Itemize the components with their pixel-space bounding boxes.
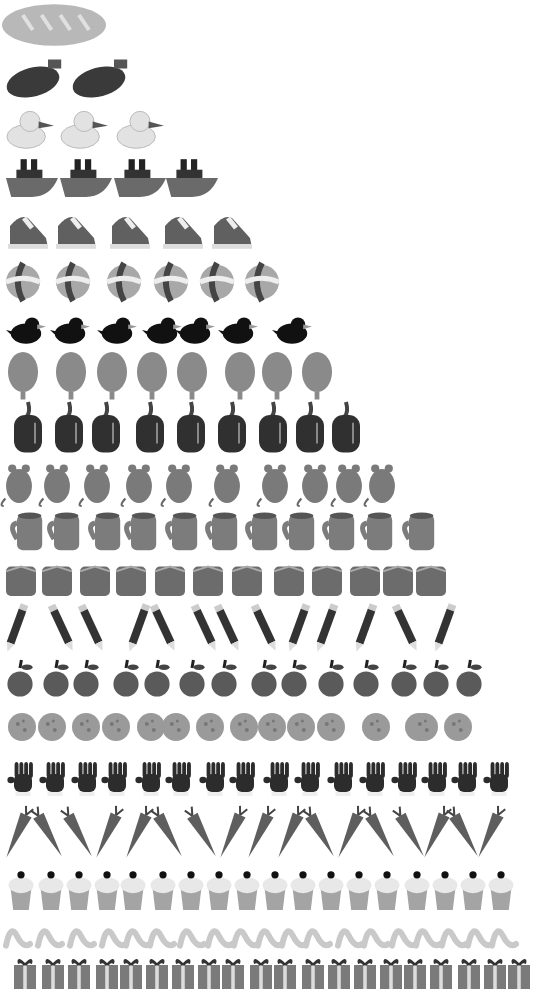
balloon-icon xyxy=(137,352,167,402)
worm-icon xyxy=(440,920,466,952)
block-icon xyxy=(232,565,262,597)
worm-icon xyxy=(336,920,362,952)
gift-icon xyxy=(198,957,220,989)
mouse-icon xyxy=(298,456,332,506)
cupcake-icon xyxy=(346,870,372,910)
cookie-icon xyxy=(230,712,258,742)
apple-icon xyxy=(178,660,206,700)
mug-icon xyxy=(400,511,436,551)
worm-icon xyxy=(362,920,388,952)
block-icon xyxy=(312,565,342,597)
cupcake-icon xyxy=(460,870,486,910)
glove-icon xyxy=(328,760,358,800)
row-beach-ball xyxy=(0,263,557,301)
cookie-icon xyxy=(72,712,100,742)
mouse-icon xyxy=(332,456,366,506)
cookie-icon xyxy=(8,712,36,742)
cupcake-icon xyxy=(178,870,204,910)
row-balloon xyxy=(0,352,557,402)
glove-icon xyxy=(484,760,514,800)
cupcake-icon xyxy=(432,870,458,910)
block-icon xyxy=(350,565,380,597)
carrot-icon xyxy=(98,805,118,860)
block-icon xyxy=(116,565,146,597)
cookie-icon xyxy=(410,712,438,742)
gift-icon xyxy=(380,957,402,989)
block-icon xyxy=(416,565,446,597)
shoe-icon xyxy=(56,210,96,250)
gift-icon xyxy=(354,957,376,989)
mouse-icon xyxy=(2,456,36,506)
row-boat xyxy=(0,155,557,197)
glove-icon xyxy=(452,760,482,800)
carrot-icon xyxy=(192,805,212,860)
worm-icon xyxy=(232,920,258,952)
balloon-icon xyxy=(262,352,292,402)
carrot-icon xyxy=(158,805,178,860)
cupcake-icon xyxy=(8,870,34,910)
glove-icon xyxy=(422,760,452,800)
beach-ball-icon xyxy=(6,263,40,301)
bird-icon xyxy=(50,312,90,348)
bird-icon xyxy=(175,312,215,348)
glove-icon xyxy=(392,760,422,800)
beach-ball-icon xyxy=(245,263,279,301)
gift-icon xyxy=(458,957,480,989)
worm-icon xyxy=(68,920,94,952)
bird-icon xyxy=(97,312,137,348)
carrot-icon xyxy=(280,805,300,860)
glove-icon xyxy=(72,760,102,800)
block-icon xyxy=(155,565,185,597)
duck-icon xyxy=(116,108,164,150)
pencil-icon xyxy=(128,603,148,653)
pepper-icon xyxy=(136,402,164,454)
pepper-icon xyxy=(218,402,246,454)
carrot-icon xyxy=(340,805,360,860)
mouse-icon xyxy=(258,456,292,506)
duck-icon xyxy=(60,108,108,150)
eggplant-icon xyxy=(6,55,66,100)
cookie-icon xyxy=(137,712,165,742)
beach-ball-icon xyxy=(154,263,188,301)
bread-icon xyxy=(2,0,106,50)
worm-icon xyxy=(4,920,30,952)
carrot-icon xyxy=(250,805,270,860)
carrot-icon xyxy=(400,805,420,860)
beach-ball-icon xyxy=(56,263,90,301)
mouse-icon xyxy=(365,456,399,506)
pencil-icon xyxy=(6,603,26,653)
glove-icon xyxy=(40,760,70,800)
worm-icon xyxy=(256,920,282,952)
apple-icon xyxy=(112,660,140,700)
pepper-icon xyxy=(55,402,83,454)
mug-icon xyxy=(86,511,122,551)
glove-icon xyxy=(102,760,132,800)
worm-icon xyxy=(36,920,62,952)
cookie-icon xyxy=(444,712,472,742)
mouse-icon xyxy=(210,456,244,506)
worm-icon xyxy=(280,920,306,952)
gift-icon xyxy=(328,957,350,989)
cupcake-icon xyxy=(120,870,146,910)
carrot-icon xyxy=(310,805,330,860)
gift-icon xyxy=(96,957,118,989)
cookie-icon xyxy=(38,712,66,742)
cupcake-icon xyxy=(290,870,316,910)
row-mug xyxy=(0,511,557,551)
glove-icon xyxy=(200,760,230,800)
apple-icon xyxy=(455,660,483,700)
glove-icon xyxy=(8,760,38,800)
pepper-icon xyxy=(14,402,42,454)
apple-icon xyxy=(352,660,380,700)
cookie-icon xyxy=(258,712,286,742)
gift-icon xyxy=(146,957,168,989)
row-duck xyxy=(0,108,557,150)
cupcake-icon xyxy=(318,870,344,910)
mug-icon xyxy=(320,511,356,551)
block-icon xyxy=(193,565,223,597)
boat-icon xyxy=(166,155,218,197)
cookie-icon xyxy=(102,712,130,742)
apple-icon xyxy=(317,660,345,700)
row-cupcake xyxy=(0,870,557,910)
pencil-icon xyxy=(316,603,336,653)
